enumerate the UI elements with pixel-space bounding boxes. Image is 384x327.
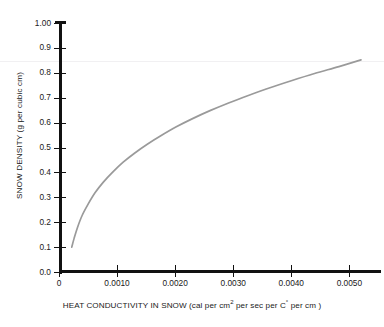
curve-layer xyxy=(0,0,384,327)
data-series-line xyxy=(72,60,361,247)
chart-figure: 0.00.10.20.30.40.50.60.70.80.91.00 00.00… xyxy=(0,0,384,327)
x-axis-title-prefix: HEAT CONDUCTIVITY IN SNOW (cal per cm xyxy=(63,301,230,310)
y-axis-title: SNOW DENSITY (g per cubic cm) xyxy=(15,41,24,231)
x-axis-title: HEAT CONDUCTIVITY IN SNOW (cal per cm2 p… xyxy=(0,299,384,310)
x-axis-title-middle: per sec per C xyxy=(234,301,286,310)
x-axis-title-suffix: per cm ) xyxy=(288,301,321,310)
